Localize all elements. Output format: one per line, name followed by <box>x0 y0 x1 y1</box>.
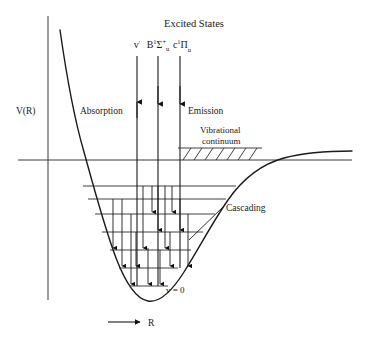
hatch-mark-1 <box>183 148 191 160</box>
transitions-group <box>137 56 180 286</box>
morse-potential-curve <box>60 30 352 301</box>
emission-label: Emission <box>188 106 224 116</box>
vibrational-continuum-label-line2: continuum <box>202 136 241 146</box>
absorption-label: Absorption <box>80 106 123 116</box>
state-label-c-pi: c1Πu <box>173 38 192 53</box>
excited-states-title: Excited States <box>164 18 224 29</box>
hatch-mark-7 <box>249 148 257 160</box>
hatch-mark-6 <box>238 148 246 160</box>
cascading-arrows-group <box>113 186 188 284</box>
cascading-label: Cascading <box>226 203 266 213</box>
diagram-canvas: Excited States v′ B1Σ+u c1Πu Absorption … <box>0 0 368 341</box>
potential-energy-diagram: Excited States v′ B1Σ+u c1Πu Absorption … <box>0 0 368 341</box>
state-label-b-sigma: B1Σ+u <box>147 38 170 52</box>
ground-level-label: v = 0 <box>166 285 185 295</box>
vibrational-continuum-hatching <box>178 148 262 160</box>
axes-group <box>18 16 352 300</box>
hatch-mark-5 <box>227 148 235 160</box>
hatch-mark-4 <box>216 148 224 160</box>
x-axis-label: R <box>148 318 155 328</box>
hatch-mark-2 <box>194 148 202 160</box>
y-axis-label: V(R) <box>16 106 36 117</box>
vibrational-continuum-label-line1: Vibrational <box>200 125 241 135</box>
state-label-vprime: v′ <box>134 39 141 51</box>
vibrational-levels-group <box>83 186 236 286</box>
state-labels-group: v′ B1Σ+u c1Πu <box>134 38 192 53</box>
hatch-mark-3 <box>205 148 213 160</box>
potential-curve-group <box>60 30 352 301</box>
